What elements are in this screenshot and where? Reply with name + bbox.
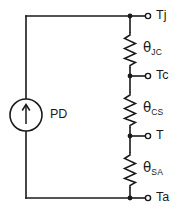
resistor-subscript-sa: SA: [151, 167, 163, 177]
schematic-canvas: Tj Tc T Ta PD θJC θCS θSA: [0, 0, 185, 215]
resistor-jc-symbol: [125, 32, 136, 68]
resistor-label-jc: θJC: [143, 41, 162, 55]
resistor-sa-symbol: [125, 152, 136, 188]
terminal-ring-ta[interactable]: [145, 195, 150, 200]
resistor-cs-symbol: [125, 92, 136, 128]
terminal-ring-tc[interactable]: [145, 73, 150, 78]
terminal-ring-t[interactable]: [145, 133, 150, 138]
terminal-label-tc: Tc: [156, 69, 169, 82]
node-dot-ta: [128, 196, 133, 201]
terminal-label-t: T: [156, 129, 164, 142]
terminal-ring-tj[interactable]: [145, 13, 150, 18]
resistor-label-cs: θCS: [143, 101, 163, 115]
resistor-subscript-jc: JC: [151, 47, 162, 57]
terminal-label-tj: Tj: [156, 9, 166, 22]
current-source-label: PD: [50, 108, 67, 121]
resistor-label-sa: θSA: [143, 161, 163, 175]
terminal-label-ta: Ta: [156, 191, 169, 204]
node-dot-tc: [128, 74, 133, 79]
node-dot-t: [128, 134, 133, 139]
resistor-subscript-cs: CS: [151, 107, 163, 117]
node-dot-tj: [128, 14, 133, 19]
